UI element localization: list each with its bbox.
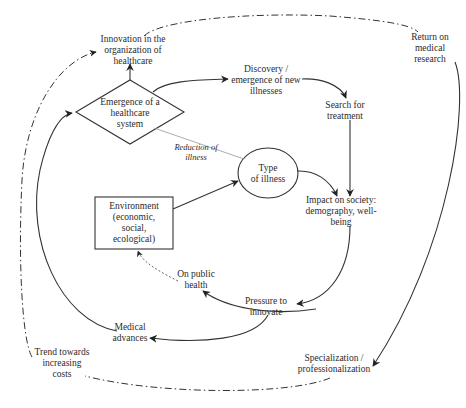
node-environment: Environment (economic, social, ecologica… (109, 201, 159, 245)
edge-innovation-to-return (144, 15, 418, 36)
node-type-of-illness: Type of illness (251, 163, 286, 185)
node-specialization-professionalization: Specialization / professionalization (298, 353, 370, 375)
node-innovation-organization: Innovation in the organization of health… (101, 34, 166, 67)
edge-label-reduction-of-illness: Reduction of illness (174, 142, 217, 162)
node-impact-on-society: Impact on society: demography, well- bei… (305, 195, 376, 228)
edge-type-to-impact (297, 171, 337, 196)
edge-pressure-to-medical (150, 315, 268, 340)
diagram-canvas: Innovation in the organization of health… (0, 0, 466, 408)
edge-return-to-specialization (373, 62, 460, 366)
edge-discovery-to-search (302, 79, 346, 98)
edge-environment-to-type (173, 181, 238, 209)
node-trend-increasing-costs: Trend towards increasing costs (35, 347, 90, 380)
edge-emergence-to-discovery (153, 79, 228, 92)
node-pressure-to-innovate: Pressure to innovate (245, 296, 287, 318)
node-emergence-healthcare-system: Emergence of a healthcare system (100, 97, 159, 130)
edge-impact-to-pressure (297, 226, 350, 304)
node-medical-advances: Medical advances (113, 322, 148, 344)
node-on-public-health: On public health (177, 269, 215, 291)
node-discovery-new-illnesses: Discovery / emergence of new illnesses (231, 64, 300, 97)
edge-costs-to-innovation (20, 52, 96, 357)
edge-specialization-to-costs (85, 376, 330, 391)
node-return-medical-research: Return on medical research (411, 32, 449, 65)
edge-publichealth-to-environment (138, 251, 178, 281)
node-search-treatment: Search for treatment (325, 100, 364, 122)
